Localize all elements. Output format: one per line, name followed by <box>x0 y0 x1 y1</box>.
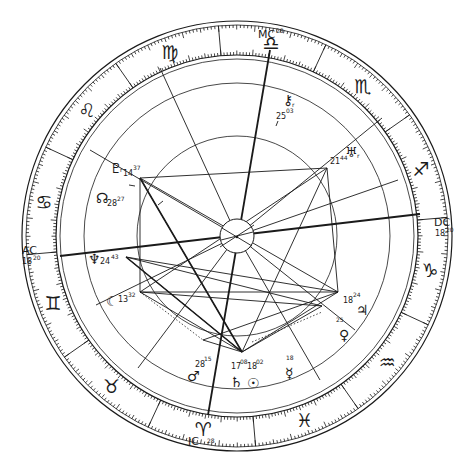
inner-tick <box>410 182 413 183</box>
outer-tick <box>399 103 401 105</box>
outer-tick <box>284 439 285 442</box>
outer-tick <box>30 196 33 197</box>
inner-tick <box>365 104 369 108</box>
inner-tick <box>111 102 113 104</box>
inner-tick <box>415 201 418 202</box>
outer-tick <box>431 310 434 311</box>
outer-tick <box>281 439 282 442</box>
inner-tick <box>410 289 413 290</box>
outer-tick <box>40 311 43 312</box>
inner-tick <box>168 66 169 69</box>
inner-tick <box>144 393 146 397</box>
outer-tick <box>411 121 414 123</box>
inner-tick <box>305 404 306 407</box>
outer-tick <box>60 350 63 352</box>
inner-tick <box>405 304 408 305</box>
inner-tick <box>382 345 384 347</box>
inner-tick <box>157 399 158 402</box>
outer-tick <box>197 29 198 32</box>
inner-tick <box>63 173 67 175</box>
inner-tick <box>363 366 365 368</box>
moon-degree: 13 <box>118 295 128 304</box>
outer-tick <box>431 306 435 308</box>
mercury-glyph: ☿ <box>285 365 294 381</box>
inner-tick <box>180 61 181 64</box>
inner-tick <box>330 391 332 394</box>
outer-tick <box>116 404 119 409</box>
venus-glyph: ♀ <box>339 327 349 343</box>
inner-tick <box>412 283 418 285</box>
outer-tick <box>58 346 61 348</box>
astrology-chart-wheel: ♌♍♎♏♐♑♒♓♈♉♊♋ MC 28 IC 28 AC 18 20 DC 18 … <box>0 0 475 467</box>
outer-tick <box>376 79 378 81</box>
pluto-tick <box>129 185 135 186</box>
jupiter-glyph: ♃ <box>356 302 369 318</box>
inner-tick <box>354 375 357 379</box>
uranus-glyph: ♅ <box>345 144 358 160</box>
inner-tick <box>177 407 178 410</box>
inner-tick <box>121 93 123 95</box>
inner-tick <box>65 301 68 302</box>
inner-tick <box>407 172 411 174</box>
inner-tick <box>62 179 65 180</box>
outer-tick <box>76 369 80 372</box>
outer-tick <box>29 203 32 204</box>
outer-tick <box>119 61 121 64</box>
inner-tick <box>341 83 345 88</box>
inner-tick <box>383 128 385 130</box>
inner-tick <box>90 125 92 127</box>
inner-tick <box>335 82 337 85</box>
outer-tick <box>441 196 444 197</box>
inner-tick <box>162 68 163 71</box>
outer-tick <box>434 304 437 305</box>
outer-tick <box>347 57 349 60</box>
outer-tick <box>424 143 427 144</box>
inner-tick <box>83 136 86 138</box>
outer-tick <box>200 28 201 32</box>
inner-tick <box>121 377 123 379</box>
outer-tick <box>328 46 329 49</box>
inner-tick <box>349 379 351 381</box>
aspect-line-dotted <box>140 292 203 340</box>
inner-tick <box>112 369 114 371</box>
inner-tick <box>358 99 360 101</box>
outer-tick <box>437 178 440 179</box>
inner-tick <box>81 332 84 334</box>
inner-tick <box>63 176 66 177</box>
inner-tick <box>189 411 191 417</box>
inner-tick <box>103 360 105 362</box>
outer-tick <box>71 364 73 366</box>
neptune-degree: 24 <box>100 257 110 266</box>
inner-tick <box>400 315 403 316</box>
inner-tick <box>150 74 151 77</box>
outer-tick <box>422 330 425 331</box>
inner-tick <box>365 364 369 368</box>
inner-tick <box>109 366 111 368</box>
inner-tick <box>404 307 407 308</box>
outer-tick <box>344 414 346 417</box>
outer-tick <box>412 349 415 351</box>
inner-tick <box>322 396 323 399</box>
outer-tick <box>36 301 39 302</box>
inner-tick <box>183 60 184 63</box>
outer-tick <box>347 412 349 415</box>
outer-tick <box>427 320 430 321</box>
outer-tick <box>277 440 278 443</box>
inner-tick <box>76 143 80 145</box>
outer-tick <box>66 112 69 114</box>
outer-tick <box>365 400 367 402</box>
inner-tick <box>308 403 309 406</box>
sign-divider <box>253 416 256 446</box>
outer-tick <box>365 70 367 72</box>
inner-tick <box>363 104 365 106</box>
outer-tick <box>362 67 364 69</box>
outer-tick <box>93 388 95 390</box>
outer-tick <box>295 436 296 439</box>
inner-tick <box>338 83 340 86</box>
inner-tick <box>76 324 79 326</box>
cancer-sign-icon: ♋ <box>35 191 52 213</box>
inner-tick <box>109 104 111 106</box>
aspect-line <box>327 168 338 292</box>
outer-tick <box>442 203 445 204</box>
outer-tick <box>373 77 375 79</box>
